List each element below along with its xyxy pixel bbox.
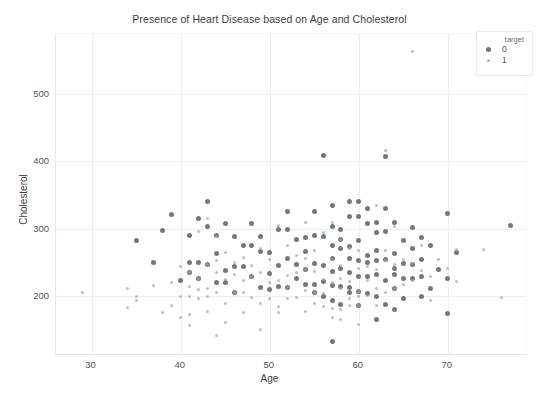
scatter-point [339, 308, 342, 311]
scatter-point [401, 296, 406, 301]
scatter-point [312, 209, 317, 214]
scatter-point [223, 221, 228, 226]
scatter-point [330, 339, 335, 344]
plot-area [55, 33, 527, 355]
scatter-point [304, 221, 307, 224]
scatter-point [330, 224, 335, 229]
scatter-point [383, 278, 388, 283]
scatter-point [437, 258, 440, 261]
scatter-point [331, 307, 334, 310]
scatter-point [436, 267, 441, 272]
scatter-point [419, 235, 424, 240]
scatter-point [206, 263, 209, 266]
scatter-point [285, 256, 290, 261]
scatter-point [188, 324, 191, 327]
scatter-point [383, 302, 388, 307]
scatter-point [338, 246, 343, 251]
scatter-point [348, 247, 351, 250]
scatter-point [356, 214, 361, 219]
scatter-point [135, 295, 138, 298]
legend-item-1-label: 1 [495, 55, 507, 66]
legend: target 0 1 [476, 31, 533, 76]
scatter-point [303, 235, 308, 240]
scatter-point [330, 298, 335, 303]
scatter-point [411, 50, 414, 53]
scatter-point [322, 231, 325, 234]
scatter-point [356, 274, 361, 279]
scatter-point [428, 243, 433, 248]
scatter-point [445, 211, 450, 216]
scatter-point [321, 263, 326, 268]
scatter-point [428, 286, 433, 291]
scatter-point [267, 250, 272, 255]
scatter-point [304, 289, 307, 292]
scatter-point [401, 238, 406, 243]
scatter-point [249, 243, 254, 248]
y-axis-label: Cholesterol [18, 155, 29, 245]
scatter-point [374, 248, 379, 253]
scatter-point [241, 243, 246, 248]
scatter-point [312, 261, 317, 266]
x-tick-label: 30 [85, 359, 96, 370]
scatter-point [321, 234, 326, 239]
legend-item-0[interactable]: 0 [482, 44, 528, 55]
scatter-point [81, 291, 84, 294]
scatter-point [258, 234, 263, 239]
scatter-point [268, 281, 271, 284]
scatter-point [268, 258, 271, 261]
scatter-point [206, 217, 209, 220]
scatter-point [268, 297, 271, 300]
scatter-point [401, 261, 406, 266]
scatter-point [402, 283, 405, 286]
scatter-point [267, 271, 272, 276]
scatter-point [206, 295, 209, 298]
scatter-point [375, 268, 378, 271]
scatter-point [338, 227, 343, 232]
scatter-point [126, 306, 129, 309]
y-tick-label: 200 [19, 289, 49, 300]
scatter-point [126, 287, 129, 290]
scatter-point [374, 272, 379, 277]
x-axis-label: Age [0, 373, 539, 384]
scatter-point [322, 292, 325, 295]
scatter-point [187, 260, 192, 265]
scatter-point [321, 294, 326, 299]
scatter-point [420, 269, 423, 272]
scatter-point [384, 249, 387, 252]
scatter-point [365, 206, 370, 211]
scatter-point [374, 258, 379, 263]
scatter-point [375, 287, 378, 290]
scatter-point [366, 279, 369, 282]
scatter-point [338, 302, 343, 307]
scatter-point [384, 259, 387, 262]
legend-item-1[interactable]: 1 [482, 55, 528, 66]
scatter-point [250, 264, 253, 267]
scatter-point [232, 234, 237, 239]
scatter-point [411, 262, 414, 265]
scatter-point [445, 276, 450, 281]
scatter-point [188, 295, 191, 298]
scatter-point [197, 277, 200, 280]
scatter-point [151, 260, 156, 265]
scatter-point [357, 249, 360, 252]
scatter-point [347, 285, 352, 290]
scatter-point [356, 238, 361, 243]
scatter-point [215, 235, 218, 238]
scatter-point [330, 283, 335, 288]
scatter-point [259, 247, 262, 250]
scatter-point [196, 260, 201, 265]
scatter-point [223, 280, 228, 285]
scatter-point [313, 270, 316, 273]
scatter-point [330, 243, 335, 248]
scatter-points [56, 34, 526, 354]
scatter-point [215, 259, 218, 262]
scatter-point [197, 230, 200, 233]
scatter-point [294, 262, 299, 267]
scatter-point [348, 280, 351, 283]
scatter-point [224, 321, 227, 324]
scatter-point [258, 285, 263, 290]
x-tick-label: 60 [352, 359, 363, 370]
scatter-point [392, 272, 397, 277]
scatter-point [330, 203, 335, 208]
scatter-point [374, 317, 379, 322]
